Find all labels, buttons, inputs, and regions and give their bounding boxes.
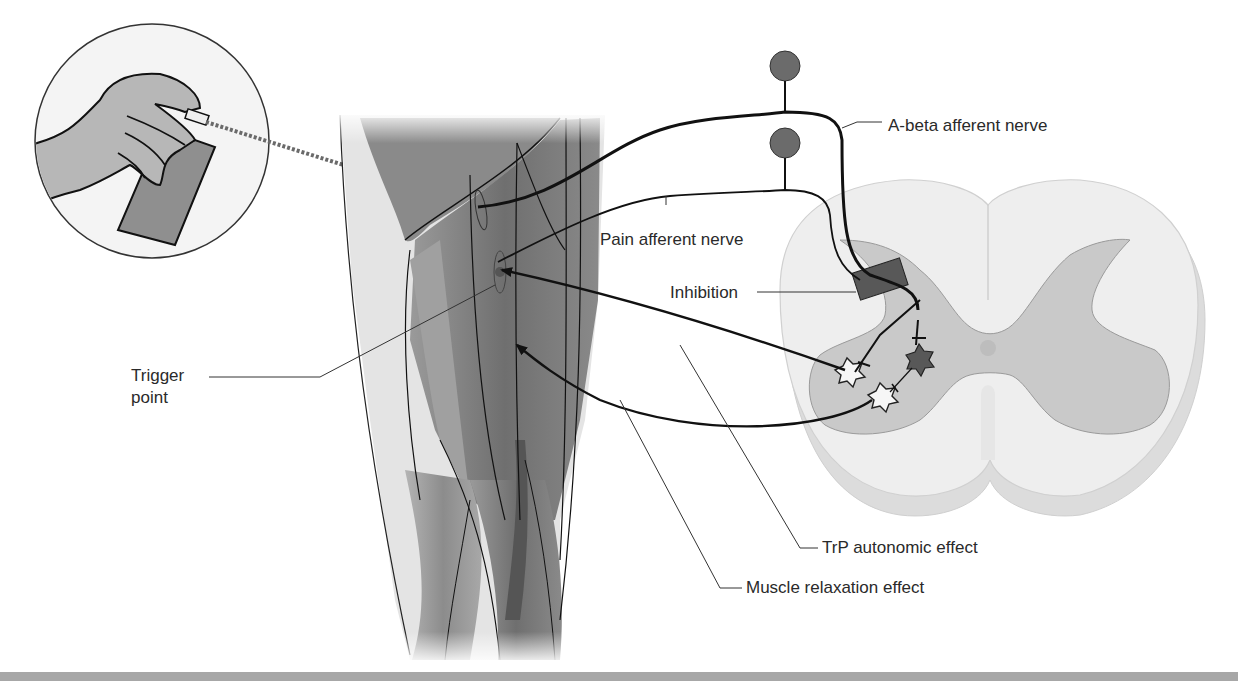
- trigger-point-marker: [495, 267, 505, 277]
- label-pain-afferent-nerve: Pain afferent nerve: [600, 230, 743, 250]
- diagram-stage: A-beta afferent nerve Pain afferent nerv…: [0, 0, 1238, 683]
- label-muscle-relaxation-effect: Muscle relaxation effect: [746, 578, 924, 598]
- footer-divider-bar: [0, 672, 1238, 681]
- label-trigger: Trigger: [131, 366, 184, 386]
- label-inhibition: Inhibition: [670, 283, 738, 303]
- spinal-cord: [780, 180, 1205, 516]
- label-abeta-afferent-nerve: A-beta afferent nerve: [888, 116, 1047, 136]
- abeta-cell-body: [770, 51, 800, 81]
- label-trp-autonomic-effect: TrP autonomic effect: [822, 538, 978, 558]
- pain-cell-body: [770, 128, 800, 158]
- label-point: point: [131, 388, 168, 408]
- thigh-muscles: [335, 110, 610, 665]
